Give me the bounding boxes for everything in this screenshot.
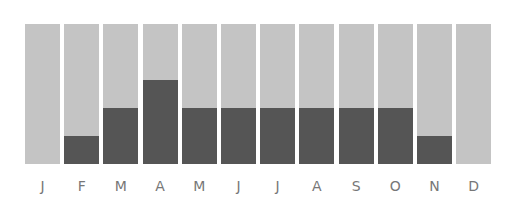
x-tick-label: F: [64, 178, 99, 194]
bar-value: [260, 108, 295, 164]
x-tick-label: J: [221, 178, 256, 194]
bar-column: [417, 24, 452, 164]
x-tick-label: J: [25, 178, 60, 194]
x-tick-label: M: [182, 178, 217, 194]
bar-column: [378, 24, 413, 164]
x-tick-label: A: [299, 178, 334, 194]
bar-value: [182, 108, 217, 164]
bar-value: [299, 108, 334, 164]
bar-column: [221, 24, 256, 164]
x-tick-label: M: [103, 178, 138, 194]
bar-column: [182, 24, 217, 164]
bar-column: [143, 24, 178, 164]
bar-value: [64, 136, 99, 164]
bar-column: [25, 24, 60, 164]
x-tick-label: J: [260, 178, 295, 194]
bar-value: [417, 136, 452, 164]
x-tick-label: O: [378, 178, 413, 194]
bar-value: [339, 108, 374, 164]
bar-column: [339, 24, 374, 164]
bar-value: [143, 80, 178, 164]
bar-column: [299, 24, 334, 164]
bar-chart: [25, 24, 491, 164]
bar-column: [260, 24, 295, 164]
bar-value: [221, 108, 256, 164]
bar-column: [103, 24, 138, 164]
x-tick-label: N: [417, 178, 452, 194]
x-tick-label: A: [143, 178, 178, 194]
bar-value: [378, 108, 413, 164]
bar-column: [456, 24, 491, 164]
bar-value: [103, 108, 138, 164]
x-tick-label: D: [456, 178, 491, 194]
x-tick-label: S: [339, 178, 374, 194]
bar-column: [64, 24, 99, 164]
